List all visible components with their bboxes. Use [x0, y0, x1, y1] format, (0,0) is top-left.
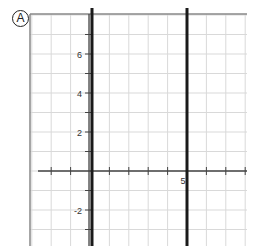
y-tick-label: 2 — [77, 128, 82, 138]
y-tick-label: 4 — [77, 89, 82, 99]
graph-plot: 642-25 — [0, 0, 257, 246]
y-tick-label: -2 — [74, 206, 82, 216]
x-tick-label: 5 — [180, 176, 185, 186]
y-tick-label: 6 — [77, 50, 82, 60]
